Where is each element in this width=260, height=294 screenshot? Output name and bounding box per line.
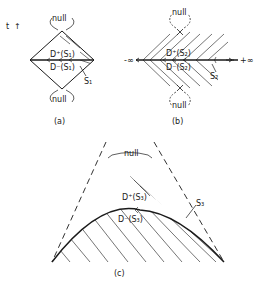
future-domain-c: D⁺(S₃) xyxy=(122,193,147,202)
panel-a xyxy=(30,18,94,102)
null-label-b-top: null xyxy=(172,8,187,17)
time-label: t xyxy=(6,22,9,31)
null-cone-left xyxy=(52,142,106,262)
caption-a: (a) xyxy=(54,117,65,126)
right-limit-label: +∞ xyxy=(240,56,253,65)
past-domain-a: D⁻(S₁) xyxy=(50,63,75,72)
future-domain-a: D⁺(S₁) xyxy=(50,50,75,59)
caption-b: (b) xyxy=(172,117,183,126)
null-label-a-top: null xyxy=(52,14,67,23)
arrow-right-icon xyxy=(226,58,234,62)
null-cone-right xyxy=(154,142,224,262)
arrow-up-icon: ↑ xyxy=(14,22,21,31)
vertex-x-top xyxy=(177,29,183,35)
surface-label-s3: S₃ xyxy=(196,199,204,208)
vertex-x-bottom xyxy=(177,85,183,91)
surface-label-s2: S₂ xyxy=(210,72,218,81)
null-label-a-bottom: null xyxy=(52,95,67,104)
time-axis: t ↑ xyxy=(6,22,21,31)
surface-label-s1: S₁ xyxy=(84,77,92,86)
hatching-past-c xyxy=(60,204,224,262)
past-domain-c: D⁻(S₃) xyxy=(118,215,143,224)
past-domain-b: D⁻(S₂) xyxy=(166,63,191,72)
panel-b xyxy=(136,14,238,106)
null-label-c: null xyxy=(124,149,139,158)
domain-of-dependence-figure: t ↑ null null D⁺(S₁) D⁻(S₁) S₁ (a) xyxy=(0,0,260,294)
caption-c: (c) xyxy=(114,269,125,278)
s2-pointer xyxy=(212,64,216,72)
future-domain-b: D⁺(S₂) xyxy=(166,49,191,58)
null-label-b-bottom: null xyxy=(172,101,187,110)
left-limit-label: -∞ xyxy=(124,56,134,65)
